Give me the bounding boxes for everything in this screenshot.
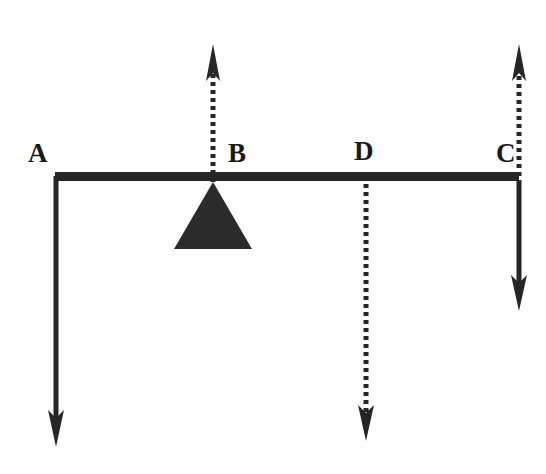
point-label-B: B	[228, 140, 247, 167]
force-arrow-C-down	[511, 180, 527, 311]
force-arrow-B	[206, 44, 220, 182]
lever-beam	[55, 172, 519, 181]
point-label-A: A	[28, 140, 48, 167]
force-arrow-D	[358, 176, 374, 441]
fulcrum-triangle	[174, 182, 252, 249]
point-label-C: C	[496, 140, 516, 167]
point-label-D: D	[354, 138, 374, 165]
diagram-canvas	[0, 0, 546, 474]
lever-diagram: A B D C	[0, 0, 546, 474]
force-arrow-A	[48, 176, 64, 447]
arrowhead-C-up	[512, 44, 526, 81]
